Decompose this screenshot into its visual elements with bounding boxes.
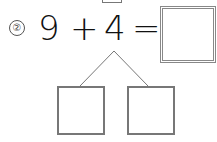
decomposition-left-box[interactable] (57, 86, 105, 135)
decomposition-lines (0, 0, 217, 142)
decomposition-right-box[interactable] (127, 86, 175, 135)
